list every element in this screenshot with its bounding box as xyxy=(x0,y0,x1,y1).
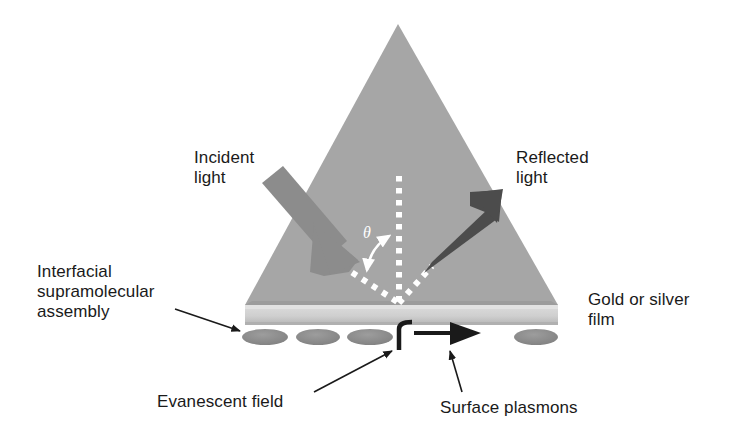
surface-plasmons-callout-line xyxy=(450,351,462,392)
reflected-light-label: Reflected light xyxy=(516,148,589,188)
molecule-ellipse xyxy=(296,329,340,345)
spr-diagram-svg xyxy=(0,0,738,440)
surface-plasmons-arrow xyxy=(414,322,481,345)
incidence-angle-theta-symbol: θ xyxy=(363,224,371,242)
incident-light-label: Incident light xyxy=(194,148,254,188)
evanescent-field-label: Evanescent field xyxy=(157,392,283,412)
figure-canvas: Incident light Reflected light Interfaci… xyxy=(0,0,738,440)
gold-or-silver-film-label: Gold or silver film xyxy=(588,290,690,330)
molecule-ellipse xyxy=(347,329,393,345)
evanescent-field-callout-line xyxy=(314,351,392,392)
interfacial-supramolecular-assembly-label: Interfacial supramolecular assembly xyxy=(37,262,155,322)
metal-film-top-highlight xyxy=(245,305,558,309)
interfacial-assembly-callout-line xyxy=(175,309,240,331)
molecule-ellipse xyxy=(242,329,288,345)
surface-plasmons-label: Surface plasmons xyxy=(440,398,578,418)
molecule-ellipse xyxy=(514,329,558,345)
evanescent-field-curve xyxy=(399,322,412,350)
